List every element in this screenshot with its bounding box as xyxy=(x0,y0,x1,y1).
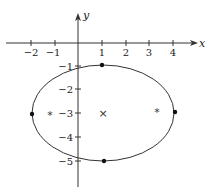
x-tick-label: −2 xyxy=(24,47,39,58)
y-axis-label: y xyxy=(82,9,90,22)
x-tick-label: 1 xyxy=(99,47,105,58)
top-vertex-point xyxy=(100,63,104,67)
left-focus-marker: * xyxy=(47,109,53,122)
right-focus-marker: * xyxy=(154,106,160,119)
right-vertex-point xyxy=(173,110,177,114)
bottom-vertex-point xyxy=(102,159,106,163)
ellipse-diagram: x y −2 −1 1 2 3 4 −1 −2 −3 −4 −5 * * × xyxy=(0,0,207,193)
x-tick-label: 4 xyxy=(170,47,176,58)
x-tick-label: −1 xyxy=(46,47,61,58)
y-tick-label: −5 xyxy=(58,156,73,167)
x-tick-label: 2 xyxy=(123,47,129,58)
center-marker: × xyxy=(98,107,107,120)
left-vertex-point xyxy=(30,112,34,116)
y-tick-label: −4 xyxy=(58,132,73,143)
x-axis-label: x xyxy=(199,37,206,50)
x-tick-label: 3 xyxy=(146,47,152,58)
y-tick-label: −2 xyxy=(58,84,73,95)
y-tick-label: −3 xyxy=(58,108,73,119)
